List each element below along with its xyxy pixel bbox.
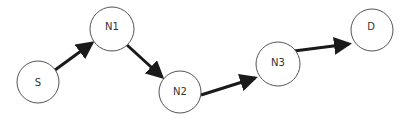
node-s: S (17, 61, 59, 103)
edge-s-n1 (55, 43, 92, 70)
node-label: N1 (105, 21, 119, 32)
graph-canvas: S N1 N2 N3 D (0, 0, 405, 124)
node-n2: N2 (159, 71, 201, 113)
edge-n1-n2 (127, 45, 162, 77)
node-label: S (35, 77, 41, 88)
edge-n3-d (294, 44, 349, 51)
edge-n2-n3 (201, 78, 255, 95)
node-n1: N1 (90, 7, 134, 51)
node-d: D (351, 9, 393, 51)
node-label: N3 (271, 57, 285, 68)
node-n3: N3 (256, 42, 300, 86)
node-label: D (367, 21, 375, 32)
node-label: N2 (173, 86, 187, 97)
